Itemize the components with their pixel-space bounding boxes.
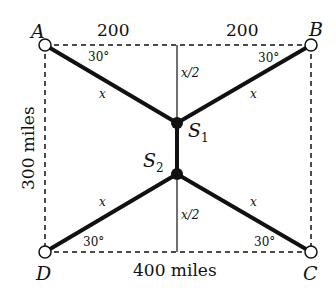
dimension-bottom: 400 miles (133, 260, 217, 280)
segment-label-CS2: x (250, 195, 257, 209)
dimension-top-left: 200 (97, 20, 129, 40)
angle-label-A: 30° (88, 50, 109, 64)
corner-C-node (305, 246, 317, 258)
dimension-top-right: 200 (226, 20, 258, 40)
steiner-network-diagram: A B D C 200 200 400 miles 300 miles 30° … (0, 0, 336, 290)
segment-label-BS1: x (250, 87, 257, 101)
angle-label-C: 30° (254, 235, 275, 249)
angle-label-B: 30° (258, 51, 279, 65)
dimension-left: 300 miles (18, 106, 38, 190)
angle-label-D: 30° (83, 235, 104, 249)
segment-label-AS1: x (99, 87, 106, 101)
corner-label-D: D (35, 262, 51, 284)
path-D-S2 (45, 174, 177, 252)
path-A-S1 (45, 45, 177, 123)
station-label-S2: S2 (143, 149, 164, 175)
junction-S1-node (171, 117, 183, 129)
corner-label-A: A (29, 20, 45, 42)
corner-label-B: B (308, 18, 323, 40)
station-label-S1: S1 (188, 119, 209, 145)
network-paths (45, 45, 311, 252)
segment-label-lower-half: x/2 (181, 208, 199, 222)
corner-D-node (39, 246, 51, 258)
segment-label-DS2: x (99, 195, 106, 209)
corner-B-node (305, 39, 317, 51)
path-B-S1 (177, 45, 311, 123)
corner-label-C: C (303, 262, 318, 284)
junction-S2-node (171, 168, 183, 180)
segment-label-upper-half: x/2 (181, 66, 199, 80)
